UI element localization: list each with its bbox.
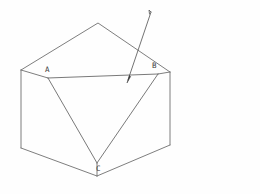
- vertex-label-a: A: [45, 65, 50, 74]
- oblique-edge-ac: [48, 78, 97, 163]
- cube-bottom-right-edge: [97, 145, 170, 176]
- technical-drawing-canvas: A B C What is the true shape of this obl…: [0, 0, 260, 194]
- cube-top-edge-left-to-a: [21, 70, 48, 78]
- cube-top-edge-right-to-b: [158, 72, 170, 74]
- cube-bottom-left-edge: [21, 148, 97, 176]
- vertex-label-c: C: [96, 164, 101, 173]
- oblique-edge-ab: [48, 74, 158, 78]
- vertex-label-b: B: [152, 61, 157, 70]
- cube-top-face-upper-edges: [21, 23, 170, 72]
- oblique-surface-figure: A B C: [0, 0, 260, 194]
- oblique-edge-bc: [97, 74, 158, 163]
- annotation-arrowhead-icon: [127, 76, 131, 84]
